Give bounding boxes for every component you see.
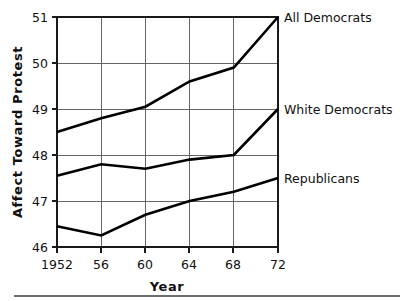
y-tick-label-46: 46 [32, 240, 48, 255]
y-tick-label-48: 48 [32, 148, 48, 163]
x-tick-label-68: 68 [225, 257, 241, 272]
y-tick-label-50: 50 [32, 56, 48, 71]
x-axis-title: Year [149, 279, 185, 294]
chart-background [0, 0, 411, 301]
series-label-all-democrats: All Democrats [284, 10, 372, 25]
line-chart-canvas: 51 50 49 48 47 46 1952 56 60 64 68 72 Af… [0, 0, 411, 301]
y-axis-title: Affect Toward Protest [10, 46, 25, 218]
x-tick-label-1952: 1952 [41, 257, 73, 272]
x-tick-label-56: 56 [93, 257, 109, 272]
y-tick-label-49: 49 [32, 102, 48, 117]
chart-figure: 51 50 49 48 47 46 1952 56 60 64 68 72 Af… [0, 0, 411, 301]
y-tick-label-51: 51 [32, 10, 48, 25]
series-label-white-democrats: White Democrats [284, 102, 393, 117]
x-tick-label-64: 64 [181, 257, 197, 272]
x-tick-label-60: 60 [137, 257, 153, 272]
x-tick-label-72: 72 [270, 257, 286, 272]
y-tick-label-47: 47 [32, 194, 48, 209]
series-label-republicans: Republicans [284, 171, 360, 186]
